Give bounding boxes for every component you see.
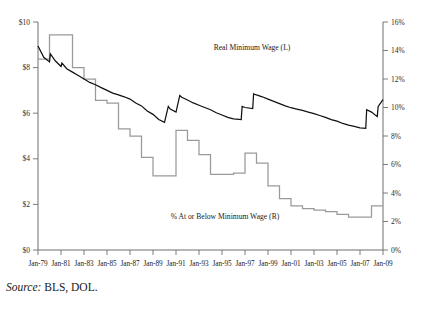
x-tick-label-14: Jan-07: [350, 260, 370, 268]
series-line-real-minimum-wage: [38, 46, 383, 128]
source-note: Source: BLS, DOL.: [6, 281, 98, 293]
right-tick-label-10: 10%: [391, 103, 405, 112]
x-tick-label-7: Jan-93: [189, 260, 209, 268]
x-tick-label-11: Jan-01: [281, 260, 301, 268]
x-tick-label-1: Jan-81: [51, 260, 71, 268]
right-tick-label-8: 8%: [391, 132, 401, 141]
left-tick-label-2: $2: [23, 200, 31, 209]
series-line-pct-at-or-below-min-wage: [38, 35, 383, 217]
right-tick-label-12: 12%: [391, 75, 405, 84]
x-tick-label-10: Jan-99: [258, 260, 278, 268]
x-axis-ticks: Jan-79 Jan-81 Jan-83 Jan-85 Jan-87 Jan-8…: [28, 250, 393, 268]
chart-figure: $0 $2 $4 $6 $8 $10 0% 2% 4% 6% 8% 10% 12…: [0, 0, 424, 309]
source-note-prefix: Source:: [6, 281, 41, 293]
x-tick-label-15: Jan-09: [373, 260, 393, 268]
right-tick-label-14: 14%: [391, 46, 405, 55]
series-annotation-real-minimum-wage: Real Minimum Wage (L): [214, 43, 291, 52]
left-tick-label-0: $0: [23, 246, 31, 255]
x-tick-label-3: Jan-85: [97, 260, 117, 268]
x-tick-label-0: Jan-79: [28, 260, 48, 268]
x-tick-label-9: Jan-97: [235, 260, 255, 268]
right-tick-label-2: 2%: [391, 217, 401, 226]
x-tick-label-8: Jan-95: [212, 260, 232, 268]
x-tick-label-13: Jan-05: [327, 260, 347, 268]
series-annotation-pct-at-or-below: % At or Below Minimum Wage (R): [171, 212, 280, 221]
right-tick-label-4: 4%: [391, 189, 401, 198]
left-tick-label-10: $10: [19, 18, 31, 27]
left-tick-label-4: $4: [23, 154, 31, 163]
right-tick-label-0: 0%: [391, 246, 401, 255]
x-tick-label-5: Jan-89: [143, 260, 163, 268]
right-tick-label-16: 16%: [391, 18, 405, 27]
x-tick-label-2: Jan-83: [74, 260, 94, 268]
right-axis-ticks: 0% 2% 4% 6% 8% 10% 12% 14% 16%: [383, 18, 405, 255]
minimum-wage-chart-svg: $0 $2 $4 $6 $8 $10 0% 2% 4% 6% 8% 10% 12…: [0, 0, 424, 309]
left-tick-label-8: $8: [23, 63, 31, 72]
left-axis-ticks: $0 $2 $4 $6 $8 $10: [19, 18, 38, 255]
source-note-text: BLS, DOL.: [41, 281, 97, 293]
right-tick-label-6: 6%: [391, 160, 401, 169]
x-tick-label-4: Jan-87: [120, 260, 140, 268]
left-tick-label-6: $6: [23, 109, 31, 118]
x-tick-label-6: Jan-91: [166, 260, 186, 268]
x-tick-label-12: Jan-03: [304, 260, 324, 268]
